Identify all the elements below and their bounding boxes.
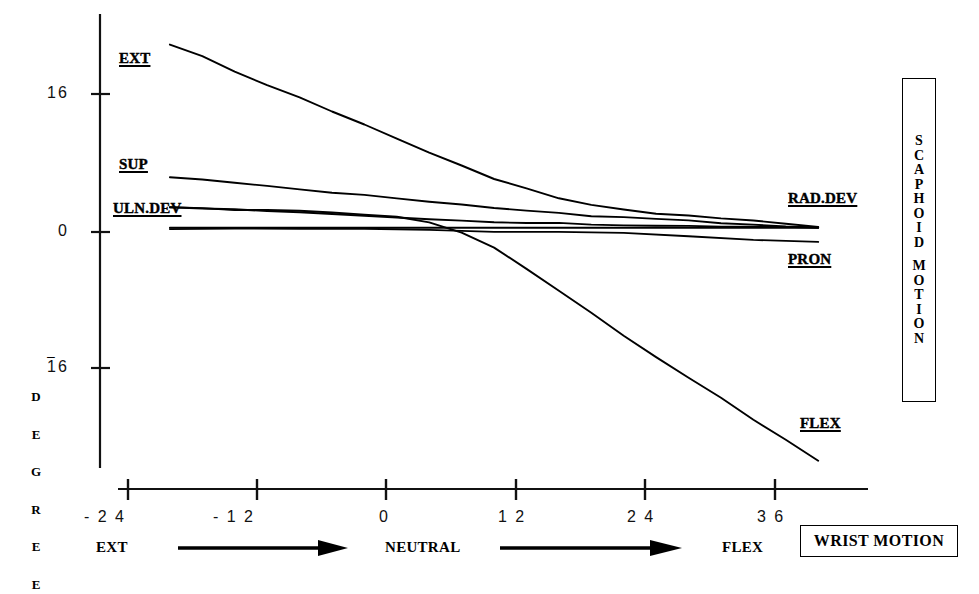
y-axis-title: D E G R E E	[28, 366, 44, 594]
scaphoid-letter: I	[903, 221, 935, 236]
data-curves-group	[170, 45, 818, 461]
y-axis-title-letter: D	[28, 391, 44, 404]
scaphoid-letter: C	[903, 149, 935, 164]
motion-letter: T	[903, 288, 935, 303]
scaphoid-letter: A	[903, 163, 935, 178]
x-direction-label-neutral: NEUTRAL	[385, 539, 460, 556]
scaphoid-motion-box: S C A P H O I D M O T I O N	[902, 78, 936, 402]
scaphoid-letter: P	[903, 178, 935, 193]
y-tick-label-16: 16	[47, 84, 69, 102]
x-tick-label-36: 3 6	[757, 508, 785, 526]
curve-sup	[170, 177, 818, 227]
wrist-motion-label: WRIST MOTION	[814, 532, 944, 550]
motion-letter: M	[903, 259, 935, 274]
x-tick-label-0: 0	[379, 508, 390, 526]
scaphoid-letter: O	[903, 207, 935, 222]
curve-label-flex: FLEX	[800, 415, 841, 432]
scaphoid-letter: S	[903, 134, 935, 149]
curve-label-ext: EXT	[119, 50, 150, 67]
curve-pron	[170, 229, 818, 242]
x-tick-label-neg12: - 1 2	[213, 508, 255, 526]
curve-label-pron: PRON	[788, 251, 831, 268]
x-tick-label-12: 1 2	[498, 508, 526, 526]
scaphoid-letter: D	[903, 236, 935, 251]
motion-letter: N	[903, 332, 935, 347]
curve-label-sup: SUP	[119, 156, 148, 173]
x-direction-label-ext: EXT	[96, 539, 128, 556]
x-direction-label-flex: FLEX	[722, 539, 763, 556]
y-tick-label-0: 0	[58, 222, 69, 240]
y-axis-title-letter: R	[28, 504, 44, 517]
curve-label-uln-dev: ULN.DEV	[113, 200, 182, 217]
wrist-motion-box: WRIST MOTION	[800, 525, 958, 557]
chart-plot-area	[0, 0, 979, 594]
y-axis-title-letter: E	[28, 541, 44, 554]
y-axis-title-letter: E	[28, 579, 44, 592]
direction-arrow-right	[500, 540, 682, 556]
y-tick-label-neg16-minus: –	[47, 348, 55, 364]
motion-letter: O	[903, 274, 935, 289]
motion-letter: I	[903, 303, 935, 318]
curve-label-rad-dev: RAD.DEV	[788, 190, 857, 207]
motion-letter: O	[903, 317, 935, 332]
y-axis-title-letter: E	[28, 429, 44, 442]
scaphoid-letter: H	[903, 192, 935, 207]
y-axis-title-letter: G	[28, 466, 44, 479]
scaphoid-motion-text: S C A P H O I D M O T I O N	[903, 134, 935, 346]
x-tick-label-24: 2 4	[627, 508, 655, 526]
curve-flex	[170, 207, 818, 460]
figure-scaphoid-motion: 16 0 16 – D E G R E E - 2 4 - 1 2 0 1 2 …	[0, 0, 979, 594]
x-tick-label-neg24: - 2 4	[84, 508, 126, 526]
direction-arrow-left	[178, 540, 348, 556]
curve-ext	[170, 45, 818, 227]
